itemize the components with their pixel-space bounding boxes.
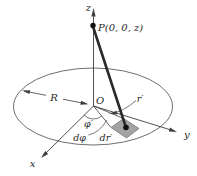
point-p-label: P(0, 0, z) xyxy=(97,22,143,33)
azimuth-angle-label: φ′ xyxy=(84,118,94,129)
x-axis-label: x xyxy=(30,158,36,169)
y-axis-label: y xyxy=(183,129,190,140)
disk-field-point-diagram: z P(0, 0, z) R O r′ φ′ dφ dr′ x y xyxy=(0,0,197,176)
x-axis-line xyxy=(44,106,94,155)
area-element-dot xyxy=(123,125,129,131)
disk-radius-label: R xyxy=(49,92,58,103)
d-radial-label: dr′ xyxy=(100,132,114,143)
radius-arrowhead-right-icon xyxy=(80,101,88,105)
y-axis-arrowhead-icon xyxy=(169,128,177,132)
radius-arrow-segment-right xyxy=(63,99,82,103)
d-azimuth-label: dφ xyxy=(73,132,86,143)
diagram-svg: z P(0, 0, z) R O r′ φ′ dφ dr′ x y xyxy=(0,0,197,176)
z-axis-arrowhead-icon xyxy=(91,8,95,17)
point-p-dot xyxy=(90,23,95,28)
radius-arrowhead-left-icon xyxy=(22,90,30,94)
origin-label: O xyxy=(96,95,104,106)
z-axis-label: z xyxy=(85,2,92,13)
radial-coord-label: r′ xyxy=(137,93,145,104)
